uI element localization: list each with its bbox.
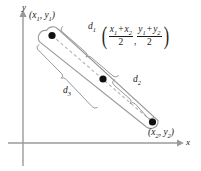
distance-d2-sub: 2 [138,79,141,86]
formula-paren-open: ( [102,25,107,47]
endpoint-2-paren-close: ) [171,127,174,137]
midpoint-formula-figure: y x (x1, y1) (x2, y2) d1 d2 d3 ( x1+x2 2… [0,0,201,171]
midpoint-formula: ( x1+x2 2 , y1+y2 2 ) [100,24,170,48]
distance-d1-label: d1 [88,22,96,33]
point-dot-endpoint-2 [149,118,156,125]
distance-d3-label: d3 [63,86,71,97]
formula-y-fraction: y1+y2 2 [137,24,161,48]
formula-y-numerator: y1+y2 [137,24,161,36]
formula-x-fraction: x1+x2 2 [109,24,133,48]
x-axis-label: x [186,138,190,147]
endpoint-1-label: (x1, y1) [29,11,55,22]
brace-d3 [37,45,97,109]
formula-comma: , [134,36,136,48]
endpoint-1-paren-close: ) [52,10,55,20]
distance-d2-label: d2 [133,75,141,86]
distance-d1-sub: 1 [93,26,96,33]
point-dot-endpoint-1 [48,32,55,39]
y-axis-label: y [22,3,26,12]
formula-x-numerator: x1+x2 [109,24,133,36]
endpoint-2-label: (x2, y2) [148,128,174,139]
formula-paren-close: ) [163,25,168,47]
formula-y-denominator: 2 [147,37,152,48]
formula-x-num-second-sub: 2 [129,29,132,36]
formula-x-denominator: 2 [118,37,123,48]
formula-y-num-second-sub: 2 [157,29,160,36]
distance-d3-sub: 3 [68,90,71,97]
point-dot-midpoint [99,75,106,82]
